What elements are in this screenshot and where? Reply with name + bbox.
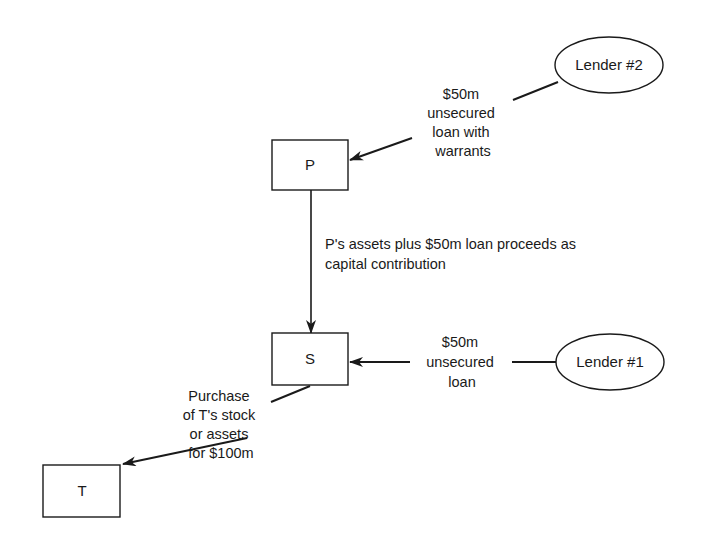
edge-lender2-to-p: $50m unsecured loan with warrants [350, 82, 558, 160]
node-t: T [43, 465, 120, 517]
edge-lender1-to-s-label: $50m unsecured loan [426, 334, 498, 390]
edge-p-to-s-label: P's assets plus $50m loan proceeds as ca… [325, 236, 580, 272]
edge-label-line: unsecured [427, 105, 495, 121]
edge-lender2-to-p-label: $50m unsecured loan with warrants [427, 86, 499, 159]
edge-label-line: capital contribution [325, 256, 446, 272]
edge-lender1-to-s: $50m unsecured loan [350, 334, 556, 390]
node-s: S [272, 333, 348, 385]
node-lender-2-label: Lender #2 [575, 56, 643, 73]
node-lender-2: Lender #2 [555, 37, 663, 93]
node-p: P [272, 140, 348, 190]
edge-p-to-s: P's assets plus $50m loan proceeds as ca… [311, 190, 580, 333]
edge-s-to-t-label: Purchase of T's stock or assets for $100… [183, 388, 260, 461]
edge-label-line: loan with [432, 124, 489, 140]
edge-label-line: P's assets plus $50m loan proceeds as [325, 236, 576, 252]
edge-label-line: Purchase [188, 388, 249, 404]
edge-label-line: $50m [442, 334, 478, 350]
edge-label-line: loan [448, 374, 475, 390]
node-p-label: P [305, 156, 315, 173]
financing-structure-diagram: Lender #2 $50m unsecured loan with warra… [0, 0, 705, 548]
edge-s-to-t: Purchase of T's stock or assets for $100… [123, 386, 310, 464]
arrow-icon [350, 138, 412, 160]
edge-label-line: or assets [190, 426, 249, 442]
connector-line [513, 82, 558, 100]
connector-line [271, 386, 310, 402]
node-t-label: T [77, 482, 86, 499]
edge-label-line: $50m [443, 86, 479, 102]
edge-label-line: for $100m [188, 445, 253, 461]
edge-label-line: unsecured [426, 354, 494, 370]
node-lender-1: Lender #1 [556, 334, 664, 390]
node-s-label: S [305, 350, 315, 367]
edge-label-line: of T's stock [183, 407, 256, 423]
edge-label-line: warrants [434, 143, 491, 159]
node-lender-1-label: Lender #1 [576, 353, 644, 370]
